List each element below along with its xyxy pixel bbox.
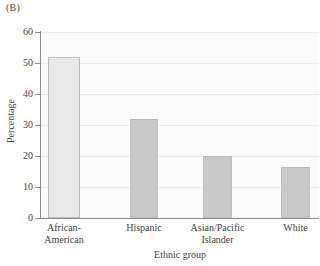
x-axis-title: Ethnic group (41, 249, 319, 260)
x-axis-line (40, 218, 319, 219)
bar (130, 119, 158, 218)
bar (48, 57, 80, 218)
y-tick-label-wrap: 60 (0, 27, 33, 37)
x-tick-label-line: White (254, 222, 320, 234)
y-tick-label: 20 (5, 151, 33, 161)
y-tick-label: 50 (5, 58, 33, 68)
gridline (41, 32, 319, 33)
y-tick-label: 40 (5, 89, 33, 99)
gridline (41, 94, 319, 95)
y-tick-label-wrap: 10 (0, 182, 33, 192)
y-tick-label-wrap: 50 (0, 58, 33, 68)
x-tick-label: Hispanic (102, 222, 186, 234)
gridline (41, 156, 319, 157)
plot-area (41, 32, 319, 218)
gridline (41, 125, 319, 126)
y-tick-label-wrap: 30 (0, 120, 33, 130)
x-tick-label-line: Islander (176, 234, 260, 246)
y-tick-label: 60 (5, 27, 33, 37)
x-tick-label: White (254, 222, 320, 234)
y-tick-label-wrap: 40 (0, 89, 33, 99)
figure-panel-b: (B) Percentage 0102030405060 African-Ame… (0, 0, 319, 266)
y-tick-label: 30 (5, 120, 33, 130)
x-tick-label: Asian/PacificIslander (176, 222, 260, 245)
gridline (41, 63, 319, 64)
x-tick-label: African-American (22, 222, 106, 245)
y-tick-label: 10 (5, 182, 33, 192)
bar (281, 167, 310, 218)
gridline (41, 187, 319, 188)
y-tick-label-wrap: 20 (0, 151, 33, 161)
x-tick-label-line: African- (22, 222, 106, 234)
panel-label: (B) (6, 2, 20, 14)
x-tick-label-line: American (22, 234, 106, 246)
x-tick-label-line: Hispanic (102, 222, 186, 234)
bar (203, 156, 232, 218)
x-tick-label-line: Asian/Pacific (176, 222, 260, 234)
